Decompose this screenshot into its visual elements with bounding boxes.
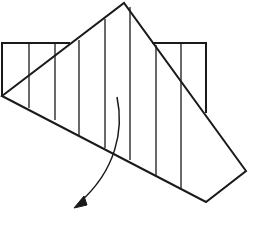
crease-lines <box>29 7 181 188</box>
folded-flap <box>2 3 246 202</box>
back-rectangle <box>2 43 206 113</box>
origami-diagram <box>0 0 253 226</box>
flap-outline <box>2 3 246 202</box>
arrow-shaft <box>80 97 119 202</box>
fold-diagram-svg <box>0 0 253 226</box>
arrow-head-icon <box>74 196 87 208</box>
